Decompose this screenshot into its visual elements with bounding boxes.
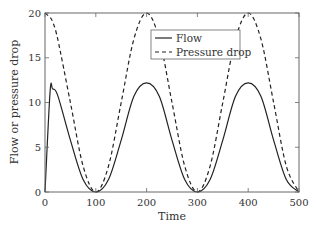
x-tick-label: 400 <box>239 197 258 208</box>
y-tick-label: 20 <box>28 8 41 19</box>
line-chart: 0100200300400500 05101520 Time Flow or p… <box>0 0 317 231</box>
x-tick-label: 300 <box>188 197 207 208</box>
y-tick-label: 10 <box>28 97 41 108</box>
x-axis-label: Time <box>158 210 186 223</box>
y-tick-label: 0 <box>35 187 41 198</box>
legend-pressure-label: Pressure drop <box>176 46 251 58</box>
x-tick-label: 100 <box>86 197 105 208</box>
y-tick-label: 15 <box>28 52 41 63</box>
y-axis-label: Flow or pressure drop <box>8 40 21 164</box>
x-tick-label: 0 <box>42 197 48 208</box>
x-tick-label: 500 <box>289 197 308 208</box>
y-tick-label: 5 <box>35 142 41 153</box>
legend: Flow Pressure drop <box>151 30 251 59</box>
x-tick-label: 200 <box>137 197 156 208</box>
legend-flow-label: Flow <box>176 32 202 44</box>
flow-line <box>45 83 299 192</box>
